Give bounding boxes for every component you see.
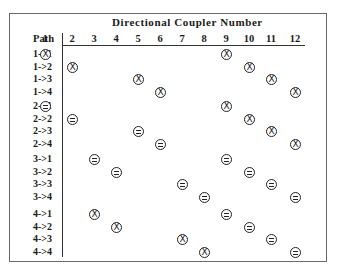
column-header-3: 3 (84, 33, 104, 44)
path-column-divider (62, 33, 63, 257)
circled-equals-icon (199, 192, 210, 203)
circled-x-icon: X (111, 222, 122, 233)
row-label: 1->3 (33, 73, 61, 84)
circled-equals-icon (244, 222, 255, 233)
column-header-11: 11 (261, 33, 281, 44)
circled-equals-icon (221, 209, 232, 220)
row-label: 3->4 (33, 191, 61, 202)
circled-equals-icon (89, 154, 100, 165)
column-header-10: 10 (239, 33, 259, 44)
table-title: Directional Coupler Number (112, 16, 263, 28)
circled-equals-icon (221, 154, 232, 165)
circled-x-icon: X (89, 209, 100, 220)
column-header-12: 12 (285, 33, 305, 44)
row-label: 3->2 (33, 166, 61, 177)
circled-x-icon: X (155, 87, 166, 98)
column-header-6: 6 (150, 33, 170, 44)
circled-equals-icon (40, 101, 51, 112)
row-label: 2->2 (33, 113, 61, 124)
circled-equals-icon (111, 167, 122, 178)
circled-x-icon: X (290, 87, 301, 98)
column-header-5: 5 (128, 33, 148, 44)
column-header-8: 8 (194, 33, 214, 44)
row-label: 4->2 (33, 221, 61, 232)
row-label: 2->3 (33, 125, 61, 136)
row-label: 3->1 (33, 153, 61, 164)
circled-x-icon: X (221, 49, 232, 60)
row-label: 1->2 (33, 61, 61, 72)
circled-x-icon: X (67, 62, 78, 73)
row-label: 1->4 (33, 86, 61, 97)
row-label: 4->4 (33, 246, 61, 257)
circled-x-icon: X (244, 114, 255, 125)
circled-equals-icon (67, 114, 78, 125)
column-header-7: 7 (172, 33, 192, 44)
row-label: 4->1 (33, 208, 61, 219)
column-header-2: 2 (62, 33, 82, 44)
column-header-1: 1 (35, 33, 55, 44)
circled-equals-icon (290, 192, 301, 203)
circled-equals-icon (244, 167, 255, 178)
circled-x-icon: X (290, 139, 301, 150)
column-header-4: 4 (106, 33, 126, 44)
column-header-9: 9 (216, 33, 236, 44)
circled-x-icon: X (40, 49, 51, 60)
row-label: 4->3 (33, 233, 61, 244)
row-label: 3->3 (33, 178, 61, 189)
circled-x-icon: X (244, 62, 255, 73)
circled-x-icon: X (221, 101, 232, 112)
header-divider (63, 45, 305, 46)
circled-x-icon: X (199, 247, 210, 258)
circled-equals-icon (155, 139, 166, 150)
circled-equals-icon (290, 247, 301, 258)
row-label: 2->4 (33, 138, 61, 149)
